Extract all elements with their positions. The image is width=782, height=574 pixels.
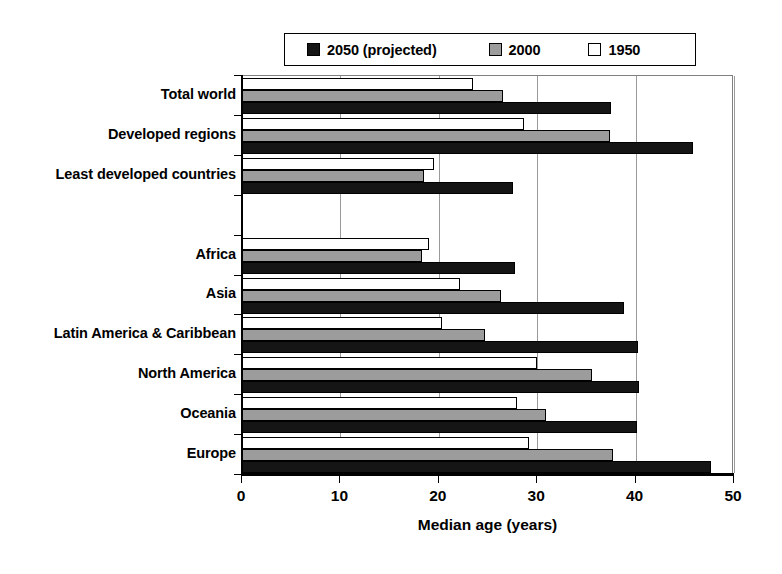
y-tick [234, 235, 241, 236]
category-label-north-america: North America [138, 365, 236, 381]
category-labels: Total worldDeveloped regionsLeast develo… [0, 75, 236, 474]
bar-2000-asia [242, 290, 501, 302]
y-axis-line [241, 75, 243, 475]
x-tick-30 [536, 476, 537, 483]
legend-entry-2050: 2050 (projected) [307, 42, 437, 58]
x-tick-50 [733, 476, 734, 483]
y-tick [234, 394, 241, 395]
x-tick-label-0: 0 [237, 487, 246, 505]
bar-2000-total-world [242, 90, 503, 102]
bar-1950-oceania [242, 397, 517, 409]
x-axis-title: Median age (years) [241, 516, 734, 534]
y-tick [234, 354, 241, 355]
x-tick-label-30: 30 [528, 487, 545, 505]
x-tick-label-10: 10 [331, 487, 348, 505]
category-label-latin-america-caribbean: Latin America & Caribbean [54, 325, 236, 341]
gridline-50 [734, 76, 735, 473]
bar-2000-least-developed-countries [242, 170, 424, 182]
x-axis-line [241, 473, 734, 476]
bar-1950-developed-regions [242, 118, 524, 130]
legend-entry-2000: 2000 [489, 42, 541, 58]
y-tick [234, 314, 241, 315]
category-label-africa: Africa [196, 246, 237, 262]
y-tick [234, 195, 241, 196]
legend-entry-1950: 1950 [588, 42, 640, 58]
x-tick-label-50: 50 [724, 487, 741, 505]
x-tick-label-20: 20 [429, 487, 446, 505]
bar-2000-latin-america-caribbean [242, 329, 485, 341]
bar-1950-europe [242, 437, 529, 449]
bar-1950-africa [242, 238, 429, 250]
legend-label-1950: 1950 [608, 42, 640, 58]
y-tick [234, 155, 241, 156]
legend-label-2050: 2050 (projected) [327, 42, 437, 58]
bars-layer [242, 76, 732, 473]
x-tick-20 [438, 476, 439, 483]
legend-swatch-2050 [307, 43, 320, 56]
bar-1950-latin-america-caribbean [242, 317, 442, 329]
chart-legend: 2050 (projected) 2000 1950 [284, 33, 696, 66]
legend-swatch-2000 [489, 43, 502, 56]
bar-2050-projected--north-america [242, 381, 639, 393]
bar-2050-projected--africa [242, 262, 515, 274]
x-tick-0 [241, 476, 242, 483]
bar-2050-projected--asia [242, 302, 624, 314]
median-age-bar-chart: 2050 (projected) 2000 1950 Total worldDe… [0, 0, 782, 574]
y-tick [234, 75, 241, 76]
bar-1950-least-developed-countries [242, 158, 434, 170]
bar-1950-north-america [242, 357, 537, 369]
x-tick-10 [339, 476, 340, 483]
bar-2050-projected--least-developed-countries [242, 182, 513, 194]
bar-2050-projected--developed-regions [242, 142, 693, 154]
category-label-least-developed-countries: Least developed countries [56, 166, 236, 182]
bar-1950-total-world [242, 78, 473, 90]
bar-2000-developed-regions [242, 130, 610, 142]
legend-label-2000: 2000 [509, 42, 541, 58]
category-label-oceania: Oceania [180, 405, 236, 421]
x-tick-40 [635, 476, 636, 483]
bar-2050-projected--europe [242, 461, 711, 473]
bar-2000-oceania [242, 409, 546, 421]
legend-swatch-1950 [588, 43, 601, 56]
y-tick [234, 275, 241, 276]
y-tick [234, 434, 241, 435]
category-label-asia: Asia [206, 285, 236, 301]
plot-area [241, 75, 733, 474]
bar-2050-projected--oceania [242, 421, 637, 433]
bar-1950-asia [242, 278, 460, 290]
y-tick [234, 474, 241, 475]
bar-2000-europe [242, 449, 613, 461]
category-label-total-world: Total world [161, 86, 236, 102]
x-tick-label-40: 40 [626, 487, 643, 505]
bar-2000-north-america [242, 369, 592, 381]
category-label-europe: Europe [187, 445, 236, 461]
bar-2050-projected--total-world [242, 102, 611, 114]
bar-2050-projected--latin-america-caribbean [242, 341, 638, 353]
bar-2000-africa [242, 250, 422, 262]
category-label-developed-regions: Developed regions [108, 126, 236, 142]
y-tick [234, 115, 241, 116]
